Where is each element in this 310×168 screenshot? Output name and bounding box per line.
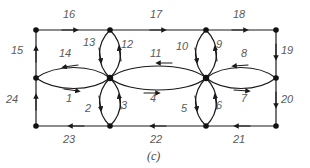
figure-caption: (c) bbox=[147, 150, 160, 162]
edge-label-15: 15 bbox=[11, 45, 23, 56]
edge-label-13: 13 bbox=[83, 37, 95, 48]
edge-2 bbox=[99, 78, 110, 126]
node-bottom-right bbox=[273, 123, 279, 129]
node-bottom-mid-left bbox=[107, 123, 113, 129]
edge-label-19: 19 bbox=[281, 45, 293, 56]
edge-label-14: 14 bbox=[59, 48, 71, 59]
edge-13 bbox=[99, 30, 110, 78]
edge-10 bbox=[195, 30, 206, 78]
edge-1 bbox=[36, 78, 110, 91]
edge-5 bbox=[195, 78, 206, 126]
figure-multigraph-diagram: 1 2 3 4 5 6 7 8 9 10 11 12 13 14 15 16 1… bbox=[0, 0, 310, 168]
edge-label-7: 7 bbox=[241, 93, 247, 104]
node-top-left bbox=[33, 27, 39, 33]
edge-label-20: 20 bbox=[281, 94, 293, 105]
edge-label-18: 18 bbox=[233, 9, 245, 20]
edge-14 bbox=[36, 65, 110, 78]
edge-4 bbox=[110, 78, 206, 93]
edge-12 bbox=[110, 30, 121, 78]
edge-label-1: 1 bbox=[66, 93, 72, 104]
edge-label-12: 12 bbox=[121, 39, 133, 50]
node-mid-right bbox=[273, 75, 279, 81]
graph-vertices bbox=[33, 27, 279, 129]
node-bottom-mid-right bbox=[203, 123, 209, 129]
edge-label-24: 24 bbox=[6, 94, 18, 105]
node-top-mid-left bbox=[107, 27, 113, 33]
node-hub-right bbox=[203, 75, 209, 81]
edge-label-16: 16 bbox=[63, 9, 75, 20]
edge-11 bbox=[110, 63, 206, 78]
edge-label-3: 3 bbox=[121, 100, 127, 111]
edge-label-11: 11 bbox=[150, 48, 161, 59]
node-top-right bbox=[273, 27, 279, 33]
edge-label-17: 17 bbox=[150, 9, 162, 20]
edge-label-22: 22 bbox=[150, 134, 162, 145]
node-bottom-left bbox=[33, 123, 39, 129]
edge-3 bbox=[110, 78, 121, 126]
edge-label-5: 5 bbox=[181, 103, 187, 114]
edge-label-10: 10 bbox=[176, 41, 188, 52]
edge-label-4: 4 bbox=[150, 93, 156, 104]
node-top-mid-right bbox=[203, 27, 209, 33]
edge-label-21: 21 bbox=[233, 134, 245, 145]
node-hub-left bbox=[107, 75, 113, 81]
edge-label-2: 2 bbox=[85, 103, 91, 114]
edge-label-23: 23 bbox=[63, 134, 75, 145]
node-mid-left bbox=[33, 75, 39, 81]
edge-label-8: 8 bbox=[241, 48, 247, 59]
edge-7 bbox=[206, 78, 276, 91]
edge-8 bbox=[206, 65, 276, 78]
edge-label-6: 6 bbox=[216, 100, 222, 111]
edge-label-9: 9 bbox=[216, 39, 222, 50]
